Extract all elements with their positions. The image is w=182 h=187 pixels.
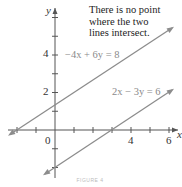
equation-label-2: 2x − 3y = 6 (112, 86, 161, 97)
y-tick-label-2: 2 (43, 85, 49, 97)
x-tick-label-6: 6 (166, 134, 172, 146)
annotation-line-1: There is no point (89, 4, 181, 16)
equation-label-1: −4x + 6y = 8 (65, 49, 120, 60)
y-tick-label-4: 4 (43, 47, 49, 59)
figure: There is no point where the two lines in… (0, 0, 182, 187)
line-series-1 (10, 28, 172, 135)
y-axis-arrow-icon (53, 8, 58, 14)
x-tick-label-0: 0 (45, 134, 51, 146)
figure-caption: FIGURE 4 (70, 177, 110, 183)
line-series-2 (45, 90, 172, 174)
annotation-line-3: lines intersect. (89, 27, 181, 39)
line2-arrow-start-icon (43, 169, 51, 175)
line2-arrow-end-icon (167, 89, 175, 95)
x-axis-label: x (177, 128, 182, 140)
annotation-line-2: where the two (89, 16, 181, 28)
x-tick-label-4: 4 (128, 134, 134, 146)
annotation-text: There is no point where the two lines in… (89, 4, 181, 39)
y-axis-label: y (46, 4, 51, 16)
